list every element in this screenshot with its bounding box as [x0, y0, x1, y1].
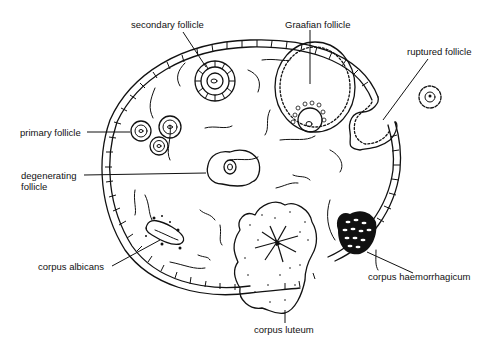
- primary-follicles: [131, 116, 181, 155]
- label-graafian-follicle: Graafian follicle: [285, 19, 350, 30]
- degenerating-follicle: [207, 150, 259, 186]
- label-degenerating-follicle-line2: follicle: [21, 181, 47, 192]
- germinal-epithelium: [102, 40, 401, 295]
- label-secondary-follicle: secondary follicle: [131, 19, 204, 30]
- label-corpus-haemorrhagicum: corpus haemorrhagicum: [368, 271, 470, 282]
- label-degenerating-follicle-line1: degenerating: [21, 170, 76, 181]
- secondary-follicle: [195, 61, 235, 101]
- corpus-haemorrhagicum: [337, 211, 376, 254]
- corpus-luteum: [234, 202, 316, 313]
- ovary-diagram: secondary follicle Graafian follicle rup…: [0, 0, 500, 348]
- graafian-follicle: [275, 42, 355, 132]
- ruptured-follicle: [350, 86, 441, 150]
- label-primary-follicle: primary follicle: [20, 127, 81, 138]
- label-corpus-albicans: corpus albicans: [38, 261, 104, 272]
- label-corpus-luteum: corpus luteum: [254, 324, 314, 335]
- corpus-albicans: [145, 215, 184, 250]
- label-ruptured-follicle: ruptured follicle: [407, 46, 471, 57]
